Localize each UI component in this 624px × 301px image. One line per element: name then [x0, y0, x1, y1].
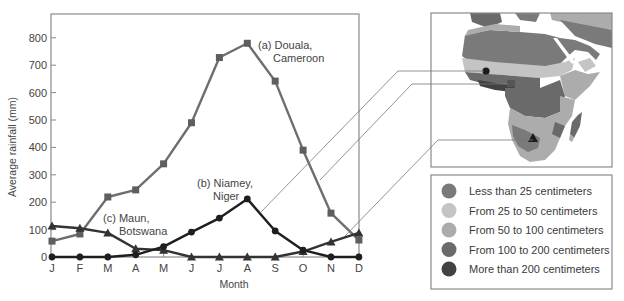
legend-swatch-icon [442, 242, 457, 257]
x-tick-label: S [272, 262, 279, 274]
legend-swatch-icon [442, 203, 457, 218]
data-point-circle [300, 247, 307, 254]
series-circle [49, 196, 363, 261]
y-tick-label: 200 [29, 196, 47, 208]
legend-label: Less than 25 centimeters [469, 185, 592, 197]
x-tick-label: D [355, 262, 363, 274]
data-point-triangle [354, 228, 363, 236]
data-point-circle [356, 254, 363, 261]
x-tick-label: M [159, 262, 168, 274]
series-layer [48, 40, 364, 261]
data-point-circle [216, 215, 223, 222]
data-point-square [104, 193, 111, 200]
x-tick-label: J [189, 262, 195, 274]
y-tick-label: 400 [29, 141, 47, 153]
legend-label: From 100 to 200 centimeters [469, 244, 610, 256]
legend-label: More than 200 centimeters [469, 263, 600, 275]
data-point-circle [272, 228, 279, 235]
rainfall-figure: 0100200300400500600700800 JFMAMJJASOND A… [0, 0, 624, 301]
legend-swatch-icon [442, 262, 457, 277]
x-tick-label: A [132, 262, 140, 274]
data-point-circle [49, 254, 56, 261]
data-point-square [160, 160, 167, 167]
x-tick-label: F [77, 262, 84, 274]
data-point-circle [328, 254, 335, 261]
y-tick-label: 100 [29, 224, 47, 236]
legend-label: From 50 to 100 centimeters [469, 224, 604, 236]
data-point-circle [77, 254, 84, 261]
x-tick-label: J [217, 262, 223, 274]
legend-swatch-icon [442, 184, 457, 199]
x-tick-label: N [327, 262, 335, 274]
data-point-circle [188, 229, 195, 236]
data-point-square [132, 186, 139, 193]
y-tick-label: 300 [29, 169, 47, 181]
data-point-circle [132, 251, 139, 258]
data-point-circle [244, 196, 251, 203]
data-point-square [188, 119, 195, 126]
legend-label: From 25 to 50 centimeters [469, 205, 598, 217]
x-tick-label: J [49, 262, 55, 274]
y-tick-label: 600 [29, 87, 47, 99]
x-tick-label: O [299, 262, 308, 274]
series-triangle [48, 222, 364, 261]
data-point-circle [104, 254, 111, 261]
legend-swatch-icon [442, 223, 457, 238]
data-point-square [300, 147, 307, 154]
y-tick-label: 500 [29, 114, 47, 126]
x-tick-label: A [244, 262, 252, 274]
data-point-circle [160, 243, 167, 250]
series-line [52, 43, 359, 241]
series-square [49, 40, 363, 245]
data-point-square [272, 78, 279, 85]
map-marker-douala [507, 80, 515, 87]
x-tick-label: M [103, 262, 112, 274]
annotation-douala: (a) Douala, Cameroon [258, 39, 324, 64]
y-tick-label: 800 [29, 32, 47, 44]
precipitation-legend: Less than 25 centimetersFrom 25 to 50 ce… [431, 175, 612, 289]
y-tick-label: 700 [29, 59, 47, 71]
data-point-square [216, 54, 223, 61]
y-tick-label: 0 [41, 251, 47, 263]
rainfall-line-chart: 0100200300400500600700800 JFMAMJJASOND A… [6, 14, 363, 290]
data-point-square [355, 237, 362, 244]
africa-precipitation-map [431, 13, 612, 167]
y-axis-title: Average rainfall (mm) [6, 97, 18, 197]
data-point-square [328, 210, 335, 217]
data-point-square [244, 40, 251, 47]
annotation-maun: (c) Maun, Botswana [103, 212, 168, 237]
data-point-square [49, 238, 56, 245]
x-axis-title: Month [219, 278, 248, 290]
